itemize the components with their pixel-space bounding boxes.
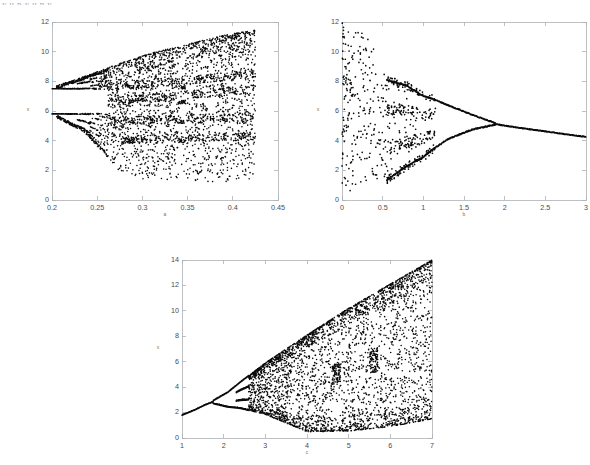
y-tick-label: 12 xyxy=(41,17,49,26)
scatter-points xyxy=(341,22,586,191)
x-tick-label: 3 xyxy=(584,203,588,212)
bifurcation-plot-bottom: 123456702468101214cx xyxy=(150,250,450,456)
x-tick-label: 0.4 xyxy=(228,203,238,212)
x-tick-label: 0.5 xyxy=(378,203,388,212)
y-tick-label: 8 xyxy=(175,331,179,340)
top-right-panel-svg: 00.511.522.53024681012bx xyxy=(322,12,586,212)
x-tick-label: 1 xyxy=(180,441,184,450)
x-axis-label: c xyxy=(306,449,309,455)
x-tick-label: 2 xyxy=(222,441,226,450)
y-tick-label: 10 xyxy=(41,47,49,56)
y-axis-label: x xyxy=(157,344,160,350)
y-tick-label: 4 xyxy=(335,136,339,145)
y-tick-label: 10 xyxy=(331,47,339,56)
y-tick-label: 0 xyxy=(335,195,339,204)
y-tick-label: 0 xyxy=(45,195,49,204)
scatter-series xyxy=(181,260,433,433)
y-tick-label: 2 xyxy=(45,165,49,174)
figure-canvas: 0.20.250.30.350.40.45024681012ax 00.511.… xyxy=(0,0,590,465)
y-tick-label: 6 xyxy=(335,106,339,115)
y-axis-label: x xyxy=(317,106,320,112)
scatter-points xyxy=(51,30,256,183)
y-tick-label: 0 xyxy=(175,433,179,442)
y-tick-label: 8 xyxy=(45,76,49,85)
x-tick-label: 7 xyxy=(430,441,434,450)
x-tick-label: 5 xyxy=(347,441,351,450)
top-left-panel-svg: 0.20.250.30.350.40.45024681012ax xyxy=(14,12,278,212)
x-tick-label: 1 xyxy=(421,203,425,212)
x-axis-label: a xyxy=(164,211,167,217)
x-tick-label: 0.25 xyxy=(90,203,104,212)
x-tick-label: 6 xyxy=(388,441,392,450)
y-tick-label: 2 xyxy=(335,165,339,174)
x-tick-label: 3 xyxy=(263,441,267,450)
bifurcation-plot-top-right: 00.511.522.53024681012bx xyxy=(322,12,586,212)
x-tick-label: 0.2 xyxy=(47,203,57,212)
y-tick-label: 10 xyxy=(171,306,179,315)
y-tick-label: 14 xyxy=(171,255,179,264)
y-tick-label: 6 xyxy=(175,357,179,366)
y-tick-label: 8 xyxy=(335,76,339,85)
y-tick-label: 4 xyxy=(45,136,49,145)
bifurcation-plot-top-left: 0.20.250.30.350.40.45024681012ax xyxy=(14,12,278,212)
x-tick-label: 0.45 xyxy=(271,203,285,212)
x-tick-label: 2 xyxy=(503,203,507,212)
x-tick-label: 0 xyxy=(340,203,344,212)
scatter-points xyxy=(181,260,433,433)
y-tick-label: 6 xyxy=(45,106,49,115)
x-tick-label: 0.35 xyxy=(181,203,195,212)
y-axis-label: x xyxy=(27,106,30,112)
bottom-panel-svg: 123456702468101214cx xyxy=(150,250,450,456)
x-tick-label: 0.3 xyxy=(137,203,147,212)
y-tick-label: 12 xyxy=(331,17,339,26)
plot-frame xyxy=(52,22,278,200)
scatter-series xyxy=(341,22,586,191)
plot-frame xyxy=(182,260,432,438)
y-tick-label: 12 xyxy=(171,280,179,289)
x-tick-label: 2.5 xyxy=(540,203,550,212)
scatter-series xyxy=(51,30,256,183)
y-tick-label: 2 xyxy=(175,407,179,416)
y-tick-label: 4 xyxy=(175,382,179,391)
x-axis-label: b xyxy=(463,211,466,217)
